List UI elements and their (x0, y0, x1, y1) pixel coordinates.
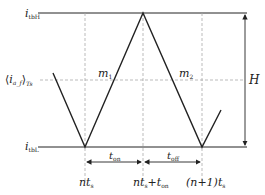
label-top-level: itbH (25, 7, 40, 20)
label-x-tick-1: nts (79, 176, 94, 189)
label-amplitude-h: H (248, 73, 260, 87)
label-x-tick-2: nts+ton (133, 176, 169, 189)
ripple-current-diagram: itbH itbL ⟨ia_f⟩Ts m1 m2 H ton toff nts … (0, 0, 265, 195)
label-slope-m2: m2 (179, 67, 193, 80)
label-bottom-level: itbL (25, 140, 39, 153)
label-t-on: ton (109, 150, 121, 162)
label-slope-m1: m1 (98, 67, 112, 80)
label-average: ⟨ia_f⟩Ts (5, 73, 33, 87)
label-t-off: toff (167, 150, 180, 162)
label-x-tick-3: (n+1)ts (186, 176, 225, 189)
